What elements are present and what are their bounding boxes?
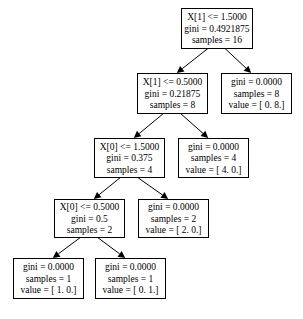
split-condition-label: X[0] <= 0.5000 <box>60 202 120 212</box>
gini-label: gini = 0.5 <box>71 214 108 224</box>
edge-line <box>97 237 120 254</box>
gini-label: gini = 0.4921875 <box>184 24 250 34</box>
samples-label: samples = 16 <box>192 35 242 45</box>
decision-node: X[1] <= 0.5000gini = 0.21875samples = 8 <box>138 74 208 114</box>
leaf-node: gini = 0.0000samples = 8value = [ 0. 8.] <box>222 74 292 114</box>
decision-tree-diagram: X[1] <= 1.5000gini = 0.4921875samples = … <box>0 0 303 319</box>
edge-n3-n5 <box>94 177 121 199</box>
leaf-node: gini = 0.0000samples = 4value = [ 4. 0.] <box>179 139 249 178</box>
gini-label: gini = 0.0000 <box>105 262 156 272</box>
edge-line <box>182 48 208 69</box>
split-condition-label: X[0] <= 1.5000 <box>100 142 160 152</box>
edge-n5-n7 <box>53 237 81 258</box>
samples-label: samples = 2 <box>67 225 113 235</box>
edge-n0-n1 <box>177 48 209 73</box>
gini-label: gini = 0.375 <box>106 153 153 163</box>
edge-line <box>137 177 162 195</box>
value-label: value = [ 0. 1.] <box>102 285 158 295</box>
edge-line <box>99 177 121 195</box>
edge-line <box>225 48 247 68</box>
value-label: value = [ 4. 0.] <box>185 165 241 175</box>
edge-line <box>180 113 203 133</box>
edge-n3-n6 <box>137 177 168 199</box>
samples-label: samples = 4 <box>191 153 237 163</box>
value-label: value = [ 0. 8.] <box>228 100 284 110</box>
leaf-node: gini = 0.0000samples = 2value = [ 2. 0.] <box>139 200 209 238</box>
arrowhead-icon <box>117 251 125 258</box>
value-label: value = [ 1. 0.] <box>20 285 76 295</box>
edge-line <box>58 237 81 254</box>
leaf-node: gini = 0.0000samples = 1value = [ 0. 1.] <box>96 259 166 299</box>
edge-n1-n3 <box>134 113 164 138</box>
edge-line <box>139 113 164 134</box>
samples-label: samples = 8 <box>150 100 196 110</box>
edge-n0-n2 <box>225 48 252 73</box>
value-label: value = [ 2. 0.] <box>145 225 201 235</box>
leaf-node: gini = 0.0000samples = 1value = [ 1. 0.] <box>14 259 84 299</box>
arrowhead-icon <box>134 131 142 138</box>
samples-label: samples = 2 <box>151 214 197 224</box>
samples-label: samples = 1 <box>108 274 154 284</box>
decision-node: X[0] <= 1.5000gini = 0.375samples = 4 <box>95 139 165 178</box>
edge-n5-n8 <box>97 237 125 258</box>
arrowhead-icon <box>53 251 61 258</box>
split-condition-label: X[1] <= 1.5000 <box>187 12 247 22</box>
gini-label: gini = 0.0000 <box>188 142 239 152</box>
decision-node: X[1] <= 1.5000gini = 0.4921875samples = … <box>182 9 253 49</box>
arrowhead-icon <box>160 192 168 199</box>
samples-label: samples = 8 <box>234 89 280 99</box>
decision-node: X[0] <= 0.5000gini = 0.5samples = 2 <box>55 200 125 238</box>
arrowhead-icon <box>94 192 102 199</box>
arrowhead-icon <box>177 66 185 73</box>
gini-label: gini = 0.0000 <box>23 262 74 272</box>
samples-label: samples = 4 <box>107 165 153 175</box>
edge-n1-n4 <box>180 113 208 138</box>
samples-label: samples = 1 <box>26 274 72 284</box>
split-condition-label: X[1] <= 0.5000 <box>143 77 203 87</box>
gini-label: gini = 0.21875 <box>145 89 201 99</box>
gini-label: gini = 0.0000 <box>148 202 199 212</box>
gini-label: gini = 0.0000 <box>231 77 282 87</box>
